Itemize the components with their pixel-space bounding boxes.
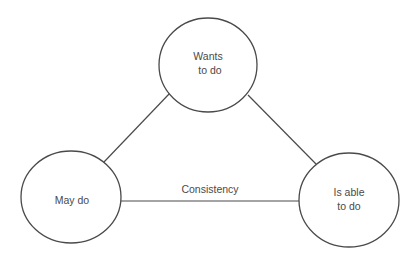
- node-wants-label-line2: to do: [198, 64, 222, 76]
- edge-may-to-wants: [104, 93, 170, 162]
- node-wants-label-line1: Wants: [193, 50, 222, 62]
- triangle-diagram: Wants to do May do Is able to do Consist…: [0, 0, 417, 261]
- edge-wants-to-able: [248, 95, 316, 164]
- node-wants-to-do: Wants to do: [159, 18, 257, 112]
- edge-label-consistency: Consistency: [181, 183, 239, 195]
- node-may-do: May do: [21, 151, 121, 243]
- node-may-label: May do: [55, 194, 90, 206]
- node-is-able-to-do: Is able to do: [299, 153, 399, 247]
- node-able-label-line2: to do: [337, 200, 361, 212]
- node-able-label-line1: Is able: [334, 186, 365, 198]
